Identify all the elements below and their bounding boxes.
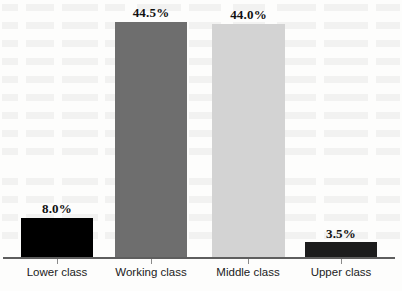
bar-value-working-class: 44.5% — [115, 5, 187, 21]
x-axis-label-upper-class: Upper class — [295, 266, 387, 278]
bar-lower-class[interactable] — [21, 218, 93, 258]
bar-middle-class[interactable] — [212, 24, 285, 258]
x-axis-tick-working-class — [151, 259, 152, 264]
bar-chart-plot-area: 8.0% 44.5% 44.0% 3.5% Lower class Workin… — [0, 0, 402, 291]
chart-page: 8.0% 44.5% 44.0% 3.5% Lower class Workin… — [0, 0, 402, 291]
bar-value-lower-class: 8.0% — [21, 201, 93, 217]
x-axis-tick-upper-class — [341, 259, 342, 264]
x-axis-tick-lower-class — [57, 259, 58, 264]
x-axis-label-working-class: Working class — [105, 266, 197, 278]
x-axis-tick-middle-class — [248, 259, 249, 264]
bar-value-middle-class: 44.0% — [212, 7, 285, 23]
x-axis-label-lower-class: Lower class — [11, 266, 103, 278]
bar-value-upper-class: 3.5% — [305, 226, 377, 242]
bar-upper-class[interactable] — [305, 242, 377, 258]
x-axis-line — [3, 257, 395, 259]
x-axis-label-middle-class: Middle class — [202, 266, 294, 278]
bar-working-class[interactable] — [115, 22, 187, 258]
